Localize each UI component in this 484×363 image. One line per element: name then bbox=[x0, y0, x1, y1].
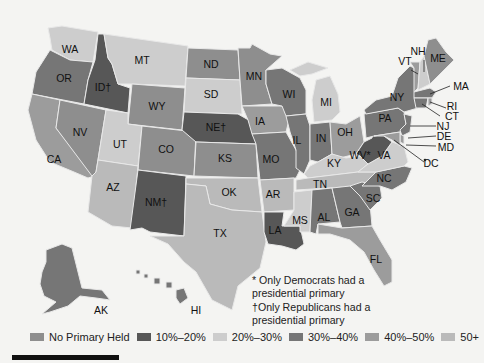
legend-swatch bbox=[289, 333, 303, 341]
label-ND: ND bbox=[203, 58, 219, 70]
label-NE: NE† bbox=[206, 121, 227, 133]
legend: No Primary Held 10%–20% 20%–30% 30%–40% … bbox=[30, 331, 484, 343]
label-WI: WI bbox=[283, 88, 296, 100]
label-ME: ME bbox=[430, 52, 446, 64]
label-WA: WA bbox=[62, 43, 79, 55]
label-IL: IL bbox=[293, 134, 302, 146]
label-OH: OH bbox=[337, 126, 353, 138]
label-DC: DC bbox=[423, 157, 439, 169]
legend-swatch bbox=[137, 333, 151, 341]
label-MO: MO bbox=[263, 153, 280, 165]
label-NC: NC bbox=[376, 172, 392, 184]
legend-item-none: No Primary Held bbox=[30, 331, 130, 343]
legend-item-50-plus: 50+ bbox=[441, 331, 479, 343]
label-OK: OK bbox=[221, 186, 236, 198]
label-TN: TN bbox=[313, 178, 327, 190]
label-OR: OR bbox=[56, 72, 72, 84]
label-WY: WY bbox=[149, 100, 166, 112]
label-MN: MN bbox=[246, 70, 262, 82]
label-UT: UT bbox=[113, 138, 128, 150]
label-CO: CO bbox=[158, 143, 174, 155]
label-AZ: AZ bbox=[106, 181, 120, 193]
label-NY: NY bbox=[390, 91, 405, 103]
legend-swatch bbox=[213, 333, 227, 341]
label-GA: GA bbox=[344, 206, 359, 218]
legend-label: 20%–30% bbox=[232, 331, 282, 343]
label-IA: IA bbox=[255, 115, 265, 127]
footnote-republicans: †Only Republicans had a bbox=[252, 301, 370, 314]
label-SC: SC bbox=[366, 192, 381, 204]
label-AL: AL bbox=[318, 211, 331, 223]
state-DE[interactable] bbox=[400, 134, 404, 144]
dc-marker bbox=[424, 159, 427, 162]
footnotes: * Only Democrats had a presidential prim… bbox=[252, 274, 370, 328]
legend-item-40-50: 40%–50% bbox=[365, 331, 434, 343]
label-NV: NV bbox=[73, 126, 88, 138]
legend-label: 50+ bbox=[460, 331, 479, 343]
label-FL: FL bbox=[370, 253, 382, 265]
label-MA: MA bbox=[453, 80, 469, 92]
label-KY: KY bbox=[327, 157, 341, 169]
label-MS: MS bbox=[292, 214, 308, 226]
label-IN: IN bbox=[316, 132, 327, 144]
legend-swatch bbox=[30, 333, 44, 341]
label-MD: MD bbox=[438, 141, 455, 153]
label-VA: VA bbox=[377, 149, 390, 161]
legend-swatch bbox=[365, 333, 379, 341]
legend-label: 40%–50% bbox=[384, 331, 434, 343]
label-MT: MT bbox=[134, 54, 150, 66]
label-WV: WV* bbox=[350, 149, 371, 161]
label-CA: CA bbox=[47, 153, 62, 165]
label-AK: AK bbox=[94, 304, 108, 316]
state-NY[interactable] bbox=[364, 66, 418, 114]
label-PA: PA bbox=[378, 112, 391, 124]
legend-item-20-30: 20%–30% bbox=[213, 331, 282, 343]
label-ID: ID† bbox=[95, 81, 112, 93]
footnote-republicans-cont: presidential primary bbox=[252, 314, 370, 327]
label-HI: HI bbox=[191, 304, 202, 316]
legend-item-10-20: 10%–20% bbox=[137, 331, 206, 343]
legend-label: No Primary Held bbox=[49, 331, 130, 343]
label-NM: NM† bbox=[145, 196, 167, 208]
label-NH: NH bbox=[410, 45, 425, 57]
label-KS: KS bbox=[218, 152, 232, 164]
footnote-democrats: * Only Democrats had a bbox=[252, 274, 370, 287]
label-AR: AR bbox=[266, 188, 281, 200]
label-SD: SD bbox=[204, 88, 219, 100]
label-MI: MI bbox=[320, 96, 332, 108]
decorative-rule bbox=[12, 355, 119, 360]
legend-label: 10%–20% bbox=[156, 331, 206, 343]
legend-label: 30%–40% bbox=[308, 331, 358, 343]
label-TX: TX bbox=[213, 227, 226, 239]
state-HI[interactable] bbox=[136, 270, 188, 304]
footnote-democrats-cont: presidential primary bbox=[252, 287, 370, 300]
legend-item-30-40: 30%–40% bbox=[289, 331, 358, 343]
legend-swatch bbox=[441, 333, 455, 341]
label-LA: LA bbox=[269, 224, 282, 236]
